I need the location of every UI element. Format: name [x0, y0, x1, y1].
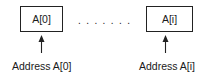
- address-label-ai: Address A[i]: [139, 60, 195, 72]
- arrow-up-icon: [39, 35, 45, 53]
- arrow-up-icon: [163, 35, 169, 53]
- address-label-a0: Address A[0]: [12, 60, 72, 72]
